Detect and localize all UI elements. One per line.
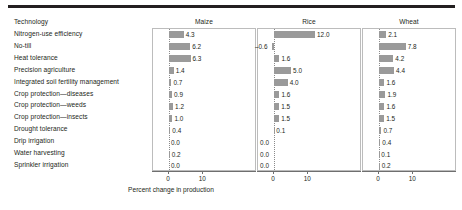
row-label: No-till (14, 42, 31, 49)
x-axis-title-text: Percent change in production (128, 186, 214, 193)
bar (169, 91, 172, 98)
bar (379, 151, 380, 158)
bar-value-label: 1.0 (174, 115, 183, 122)
bar-value-label: 1.6 (281, 55, 290, 62)
bar-value-label: 0.4 (382, 139, 391, 146)
bar (274, 67, 291, 74)
bar-value-label: 0.0 (260, 151, 269, 158)
bar-value-label: 0.7 (383, 127, 392, 134)
bar (169, 43, 190, 50)
bar (274, 127, 275, 134)
bar-value-label: 0.0 (260, 139, 269, 146)
bar (274, 115, 279, 122)
x-axis-tick-label: 10 (304, 175, 311, 182)
bar (272, 43, 274, 50)
bar (169, 103, 173, 110)
row-label: Drip irrigation (14, 137, 54, 144)
bar-value-label: 0.2 (382, 162, 391, 169)
bar-value-label: 0.0 (260, 162, 269, 169)
bar (169, 127, 170, 134)
bar-value-label: 1.6 (386, 103, 395, 110)
row-label: Drought tolerance (14, 125, 68, 132)
x-axis-tick (307, 171, 308, 174)
x-axis-tick (202, 171, 203, 174)
bar (379, 163, 380, 170)
row-label: Crop protection—diseases (14, 90, 93, 97)
row-label: Sprinkler irrigation (14, 161, 68, 168)
bar-value-label: –0.6 (255, 43, 267, 50)
bar-value-label: 0.0 (171, 162, 180, 169)
bar (274, 103, 279, 110)
panel-header-rice: Rice (257, 18, 361, 25)
bar-value-label: 0.1 (381, 151, 390, 158)
x-axis-tick (273, 171, 274, 174)
bar-value-label: 4.4 (396, 67, 405, 74)
x-axis-tick (378, 171, 379, 174)
bar-value-label: 0.1 (276, 127, 285, 134)
bar (169, 151, 170, 158)
bar-value-label: 0.2 (172, 151, 181, 158)
panel-wheat: 2.17.84.24.41.61.91.61.50.70.40.10.2 (362, 28, 456, 171)
row-label: Heat tolerance (14, 54, 58, 61)
row-label: Integrated soil fertility management (14, 78, 119, 85)
bar-value-label: 6.3 (193, 55, 202, 62)
x-axis-line (362, 171, 456, 172)
row-label: Crop protection—weeds (14, 101, 86, 108)
bar-value-label: 0.0 (171, 139, 180, 146)
row-label: Nitrogen-use efficiency (14, 30, 82, 37)
column-header-technology: Technology (14, 18, 48, 25)
bar-value-label: 4.3 (186, 31, 195, 38)
bar (379, 43, 406, 50)
bar-value-label: 1.6 (281, 91, 290, 98)
bar-value-label: 2.1 (388, 31, 397, 38)
bar (379, 103, 384, 110)
x-axis-tick-label: 10 (409, 175, 416, 182)
x-axis-tick-label: 0 (376, 175, 380, 182)
bar-value-label: 4.0 (290, 79, 299, 86)
bar (274, 55, 279, 62)
bar (274, 79, 288, 86)
bar (169, 55, 191, 62)
x-axis-title: Percent change in production (0, 186, 462, 193)
x-axis-tick (168, 171, 169, 174)
bar (169, 67, 174, 74)
x-axis-tick (412, 171, 413, 174)
bar (169, 31, 184, 38)
figure-root: Technology MaizeRiceWheat Nitrogen-use e… (0, 0, 462, 210)
row-label: Precision agriculture (14, 66, 75, 73)
row-label: Crop protection—insects (14, 113, 88, 120)
x-axis-tick-label: 0 (166, 175, 170, 182)
bar (169, 115, 172, 122)
bar (379, 79, 384, 86)
bar (379, 115, 384, 122)
bar-value-label: 1.4 (176, 67, 185, 74)
bar-value-label: 0.4 (172, 127, 181, 134)
bar-value-label: 1.5 (281, 115, 290, 122)
bar-value-label: 1.2 (175, 103, 184, 110)
bar-value-label: 1.9 (387, 91, 396, 98)
bar-value-label: 12.0 (317, 31, 329, 38)
bar-value-label: 1.5 (386, 115, 395, 122)
x-axis-tick-label: 10 (199, 175, 206, 182)
top-rule (8, 5, 455, 8)
bar (379, 31, 386, 38)
bar (379, 67, 394, 74)
x-axis-tick-label: 0 (271, 175, 275, 182)
bar-value-label: 1.5 (281, 103, 290, 110)
bar (169, 79, 171, 86)
bar-value-label: 7.8 (408, 43, 417, 50)
bar-value-label: 6.2 (192, 43, 201, 50)
zero-gridline (274, 29, 275, 170)
bar-value-label: 0.7 (173, 79, 182, 86)
bar (274, 31, 315, 38)
bar-value-label: 5.0 (293, 67, 302, 74)
bar (379, 91, 385, 98)
panel-maize: 4.36.26.31.40.70.91.21.00.40.00.20.0 (152, 28, 256, 171)
panel-rice: 12.0–0.61.65.04.01.61.51.50.10.00.00.0 (257, 28, 361, 171)
bar (379, 139, 380, 146)
row-label: Water harvesting (14, 149, 65, 156)
bar-value-label: 0.9 (174, 91, 183, 98)
panel-header-maize: Maize (152, 18, 256, 25)
bar-value-label: 4.2 (395, 55, 404, 62)
bar (379, 55, 393, 62)
